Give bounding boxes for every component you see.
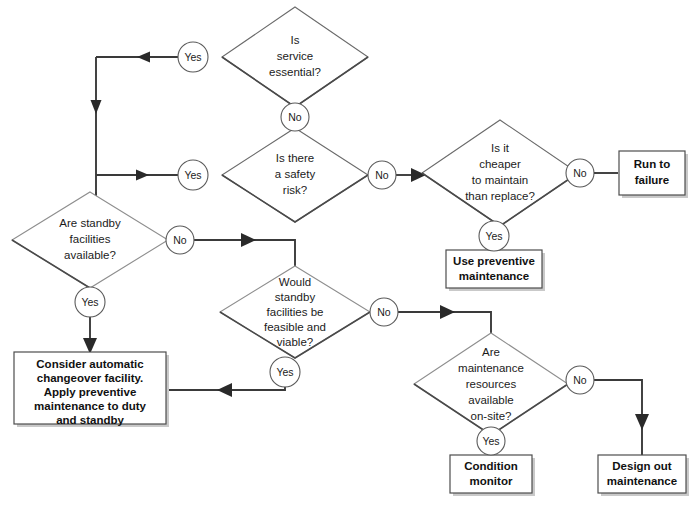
terminal-consider-automatic-changeover[interactable]: Consider automatic changeover facility. … (14, 352, 169, 427)
decision-service-essential[interactable]: Is service essential? (222, 7, 368, 107)
decision-cheaper-line-3: than replace? (465, 190, 535, 202)
terminal-condition-monitor[interactable]: Condition monitor (450, 455, 535, 496)
arrowhead-right-feasible-no (440, 305, 455, 319)
arrowhead-left-consider-box (217, 383, 232, 397)
terminal-design-out-maintenance[interactable]: Design out maintenance (598, 455, 689, 496)
edge-label-standby-feasible-yes-text: Yes (276, 366, 293, 378)
run-to-failure-line-1: failure (635, 174, 670, 186)
edge-label-resources-no: No (566, 366, 594, 394)
decision-standby-feasible-line-0: Would (279, 276, 311, 288)
decision-cheaper-line-0: Is it (491, 142, 510, 154)
condition-monitor-line-0: Condition (464, 460, 518, 472)
edge-label-service-essential-no-text: No (288, 111, 302, 123)
decision-cheaper-maintain[interactable]: Is it cheaper to maintain than replace? (422, 120, 578, 226)
arrowhead-right-standby-no (241, 233, 256, 247)
connector-feasible-yes-route (166, 361, 285, 390)
edge-label-cheaper-yes-text: Yes (485, 230, 502, 242)
decision-resources-line-1: maintenance (458, 362, 524, 374)
edge-label-service-essential-no: No (281, 103, 309, 131)
edge-label-service-essential-yes: Yes (178, 42, 208, 72)
edge-label-service-essential-yes-text: Yes (184, 51, 201, 63)
decision-standby-feasible-line-2: facilities be (267, 306, 324, 318)
decision-safety-risk[interactable]: Is there a safety risk? (222, 128, 368, 222)
edge-label-standby-feasible-no: No (370, 298, 398, 326)
run-to-failure-line-0: Run to (634, 158, 670, 170)
decision-cheaper-line-2: to maintain (472, 174, 528, 186)
decision-safety-risk-line-1: a safety (275, 168, 316, 180)
flowchart-canvas: Is service essential? Is there a safety … (0, 0, 692, 505)
terminal-run-to-failure[interactable]: Run to failure (619, 151, 688, 198)
edge-label-safety-risk-no: No (368, 161, 396, 189)
edge-label-resources-yes-text: Yes (482, 435, 499, 447)
arrowhead-right-safety-yes (136, 170, 149, 181)
consider-changeover-line-2: Apply preventive (44, 386, 137, 398)
edge-label-safety-risk-no-text: No (375, 169, 389, 181)
decision-service-essential-line-2: essential? (269, 66, 321, 78)
arrowhead-left-essential-yes (137, 52, 150, 63)
decision-resources-line-3: available (468, 394, 513, 406)
flowchart-svg: Is service essential? Is there a safety … (0, 0, 692, 505)
decision-cheaper-maintain-shape (422, 120, 578, 226)
decision-standby-available[interactable]: Are standby facilities available? (12, 192, 168, 288)
use-preventive-line-1: maintenance (459, 270, 529, 282)
edge-label-resources-yes: Yes (477, 427, 505, 455)
decision-standby-feasible-line-3: feasible and (264, 321, 326, 333)
edge-label-standby-available-no: No (166, 226, 194, 254)
edge-label-safety-risk-yes: Yes (178, 160, 208, 190)
decision-standby-feasible[interactable]: Would standby facilities be feasible and… (220, 266, 370, 358)
edge-label-cheaper-yes: Yes (479, 221, 509, 251)
edge-label-standby-available-yes: Yes (75, 287, 105, 317)
condition-monitor-line-1: monitor (470, 475, 513, 487)
edge-label-cheaper-no: No (566, 159, 594, 187)
decision-resources-line-0: Are (482, 346, 500, 358)
edge-label-standby-feasible-yes: Yes (270, 357, 300, 387)
decision-service-essential-line-1: service (277, 50, 313, 62)
decision-safety-risk-line-0: Is there (276, 152, 314, 164)
edge-label-safety-risk-yes-text: Yes (184, 169, 201, 181)
decision-standby-available-line-2: available? (64, 249, 116, 261)
decision-cheaper-line-1: cheaper (479, 158, 521, 170)
edge-label-resources-no-text: No (573, 374, 587, 386)
terminal-use-preventive-maintenance[interactable]: Use preventive maintenance (446, 250, 545, 291)
decision-safety-risk-line-2: risk? (283, 184, 307, 196)
decision-maintenance-resources[interactable]: Are maintenance resources available on-s… (414, 333, 568, 435)
decision-resources-line-2: resources (466, 378, 517, 390)
connector-resources-no-route (593, 380, 642, 456)
edge-label-standby-feasible-no-text: No (377, 306, 391, 318)
arrowhead-down-left-rail (91, 100, 102, 114)
decision-standby-feasible-line-1: standby (275, 291, 316, 303)
edge-label-standby-available-no-text: No (173, 234, 187, 246)
decision-standby-feasible-line-4: viable? (277, 336, 313, 348)
design-out-line-1: maintenance (607, 475, 677, 487)
arrowhead-down-design-out (635, 414, 649, 430)
use-preventive-line-0: Use preventive (453, 255, 535, 267)
consider-changeover-line-0: Consider automatic (36, 358, 144, 370)
consider-changeover-line-4: and standby (56, 414, 124, 426)
decision-service-essential-line-0: Is (291, 34, 300, 46)
consider-changeover-line-3: maintenance to duty (34, 400, 146, 412)
edge-label-cheaper-no-text: No (573, 167, 587, 179)
consider-changeover-line-1: changeover facility. (37, 372, 144, 384)
design-out-line-0: Design out (612, 460, 672, 472)
decision-standby-available-line-0: Are standby (59, 217, 121, 229)
decision-standby-available-line-1: facilities (70, 233, 111, 245)
edge-label-standby-available-yes-text: Yes (81, 296, 98, 308)
decision-resources-line-4: on-site? (471, 410, 512, 422)
